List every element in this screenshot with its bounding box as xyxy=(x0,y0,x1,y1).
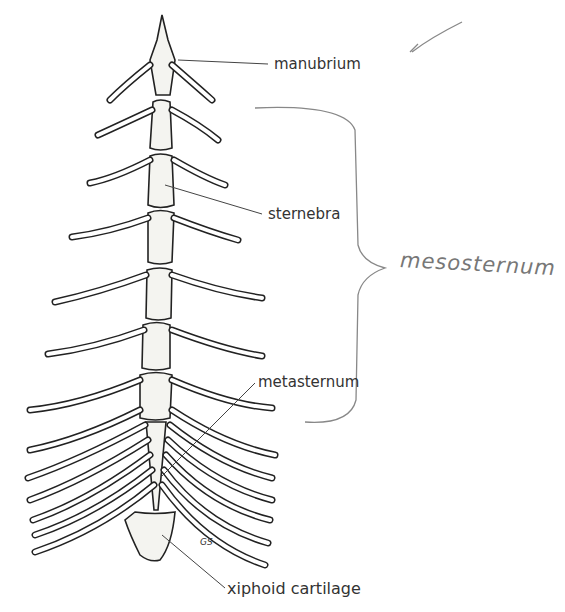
xiphoid-bone xyxy=(125,512,175,561)
label-sternebra: sternebra xyxy=(268,205,340,223)
initials: GS xyxy=(200,537,213,547)
label-xiphoid: xiphoid cartilage xyxy=(227,579,361,598)
label-metasternum: metasternum xyxy=(258,373,359,391)
label-manubrium: manubrium xyxy=(274,55,361,73)
manubrium-bone xyxy=(150,15,175,95)
sternum-diagram: GS xyxy=(0,0,565,612)
